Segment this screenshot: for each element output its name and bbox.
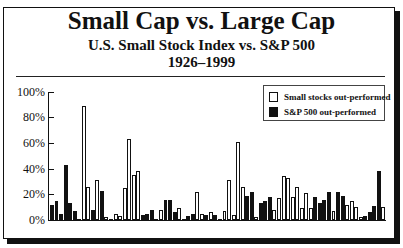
bar-1934 [86,187,90,220]
bar-1983 [309,208,313,220]
y-tick-label-80: 80% [2,111,45,123]
bar-1982 [304,193,308,220]
bar-1931 [73,211,77,220]
legend-swatch-black-icon [269,107,278,117]
y-tick-label-60: 60% [2,137,45,149]
bar-1929 [64,165,68,220]
bar-1927 [55,201,59,220]
bar-1987 [327,192,331,220]
bar-1977 [282,176,286,220]
y-tick-40 [48,169,54,170]
bar-1965 [227,180,231,220]
bar-1954 [177,208,181,220]
bar-1930 [68,203,72,220]
bar-1968 [241,187,245,220]
y-tick-80 [48,117,54,118]
frame-shadow-bottom [7,239,400,244]
legend-item-sp500: S&P 500 out-performed [269,106,376,118]
bar-1992 [350,201,354,220]
bar-1976 [277,198,281,220]
bar-1979 [291,197,295,220]
chart-period: 1926–1999 [0,54,403,71]
bar-1953 [173,212,177,220]
bar-1950 [159,210,163,220]
bar-1999 [381,207,385,220]
x-axis-line [48,220,386,221]
bar-1981 [300,208,304,220]
bar-1998 [377,171,381,220]
bar-1952 [168,200,172,220]
legend-swatch-white-icon [269,92,278,102]
bar-1978 [286,178,290,220]
title-divider [16,76,385,77]
bar-1948 [150,210,154,220]
bar-1958 [195,192,199,220]
chart-title: Small Cap vs. Large Cap [0,7,403,35]
bar-1989 [336,192,340,220]
bar-1944 [132,175,136,220]
bar-1935 [91,210,95,220]
bar-1996 [368,212,372,220]
y-tick-label-100: 100% [2,86,45,98]
bar-1972 [259,203,263,220]
bar-1997 [372,206,376,220]
bar-1969 [245,196,249,220]
bar-1993 [354,207,358,220]
bar-1986 [322,200,326,220]
legend-label-sp500: S&P 500 out-performed [284,107,376,117]
bar-1974 [268,197,272,220]
bar-1970 [250,192,254,220]
bar-1980 [295,187,299,220]
bar-1937 [100,191,104,220]
bar-1942 [123,188,127,220]
bar-1964 [223,211,227,220]
y-axis-line [48,92,49,220]
bar-1945 [136,171,140,220]
bar-1943 [127,139,131,220]
y-tick-label-20: 20% [2,188,45,200]
legend-item-small-stocks: Small stocks out-performed [269,91,391,103]
bar-1926 [50,205,54,220]
legend: Small stocks out-performed S&P 500 out-p… [263,85,385,121]
bar-1975 [272,210,276,220]
bar-1936 [95,180,99,220]
y-tick-label-40: 40% [2,163,45,175]
bar-1961 [209,212,213,220]
bar-1951 [164,200,168,220]
y-tick-20 [48,194,54,195]
bar-1988 [332,211,336,220]
bar-1990 [341,196,345,220]
chart-subtitle: U.S. Small Stock Index vs. S&P 500 [0,37,403,54]
bar-1973 [263,201,267,220]
legend-label-small-stocks: Small stocks out-performed [284,92,391,102]
y-tick-60 [48,143,54,144]
bar-1991 [345,205,349,220]
y-tick-100 [48,92,54,93]
bar-1967 [236,142,240,220]
bar-1984 [313,197,317,220]
bar-1933 [82,106,86,220]
y-tick-label-0: 0% [2,214,45,226]
bar-1985 [318,203,322,220]
